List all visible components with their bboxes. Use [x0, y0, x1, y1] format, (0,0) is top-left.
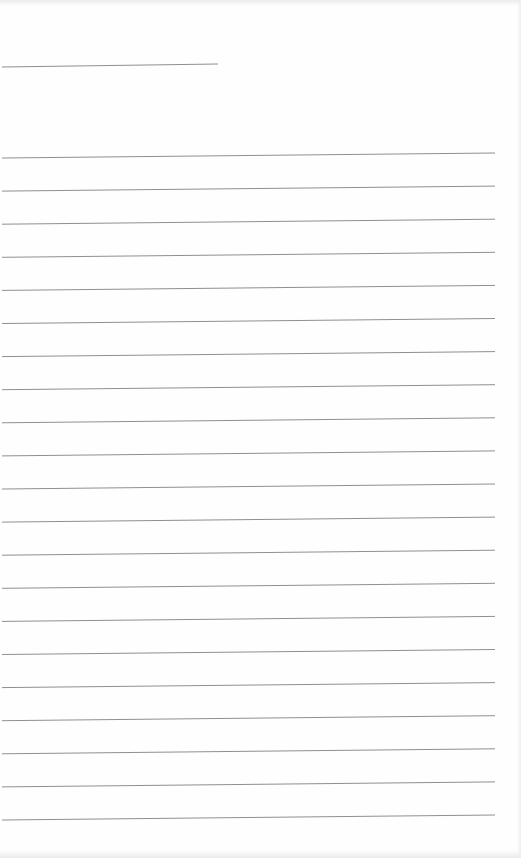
- ruled-line: [2, 418, 495, 423]
- ruled-line: [2, 616, 495, 621]
- ruled-line: [2, 716, 495, 721]
- ruled-lines: [0, 0, 521, 858]
- ruled-line: [2, 484, 495, 489]
- ruled-line: [2, 451, 495, 456]
- ruled-line: [2, 319, 495, 324]
- ruled-line: [2, 517, 495, 522]
- ruled-line: [2, 153, 495, 158]
- ruled-line: [2, 252, 495, 257]
- ruled-line: [2, 352, 495, 357]
- ruled-line: [2, 815, 495, 820]
- title-write-line: [2, 64, 218, 67]
- ruled-line: [2, 749, 495, 754]
- ruled-line: [2, 583, 495, 588]
- ruled-line: [2, 385, 495, 390]
- ruled-line: [2, 650, 495, 655]
- ruled-line: [2, 683, 495, 688]
- ruled-line: [2, 550, 495, 555]
- ruled-line: [2, 782, 495, 787]
- ruled-line: [2, 186, 495, 191]
- ruled-paper-page: [0, 0, 521, 858]
- ruled-line: [2, 285, 495, 290]
- ruled-line: [2, 219, 495, 224]
